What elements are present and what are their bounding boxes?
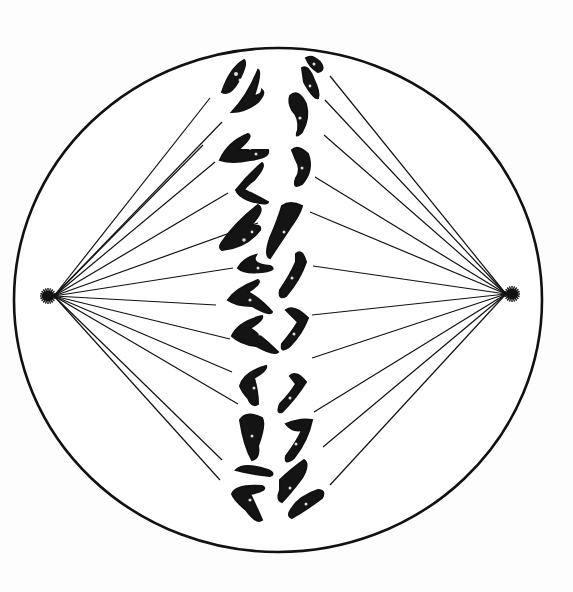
- cell-division-illustration: [0, 0, 573, 592]
- figure-canvas: [0, 0, 573, 592]
- cell-outline: [14, 48, 542, 552]
- cell-membrane: [14, 48, 542, 552]
